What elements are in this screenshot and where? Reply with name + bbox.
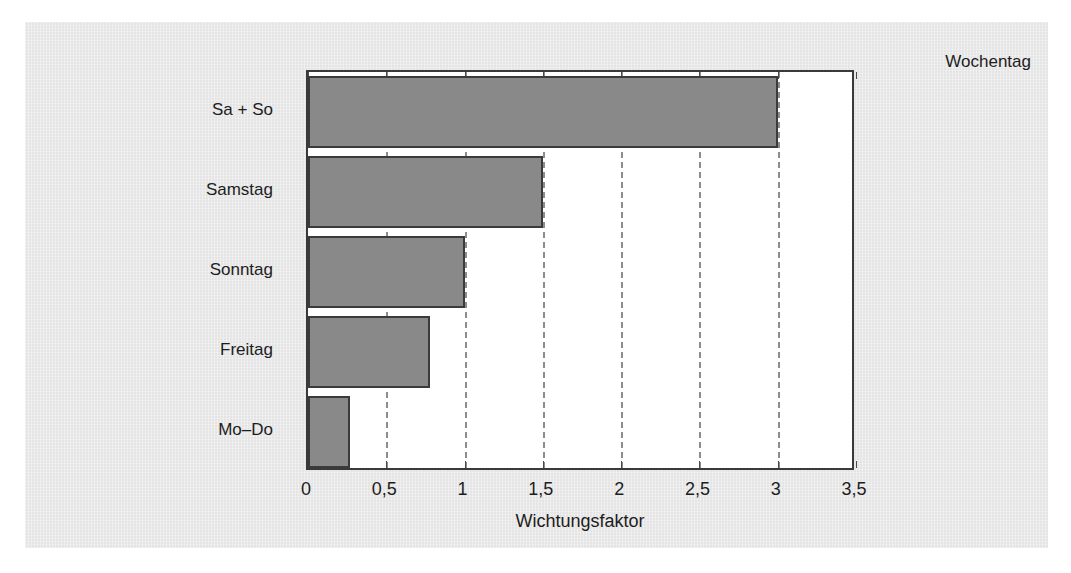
x-tick-label-2,5: 2,5: [685, 479, 710, 500]
tick-bottom-1,5: [543, 461, 544, 468]
tick-top-3: [778, 72, 779, 79]
x-tick-label-0: 0: [301, 479, 311, 500]
tick-bottom-3,5: [856, 461, 857, 468]
chart-figure: Wochentag Mo–DoFreitagSonntagSamstagSa +…: [25, 22, 1048, 548]
y-tick-label-mo–do: Mo–Do: [218, 420, 273, 440]
tick-bottom-2: [621, 461, 622, 468]
y-tick-label-sonntag: Sonntag: [210, 260, 273, 280]
plot-area: [306, 70, 854, 470]
tick-bottom-3: [778, 461, 779, 468]
x-tick-label-1: 1: [458, 479, 468, 500]
y-tick-label-freitag: Freitag: [220, 340, 273, 360]
x-tick-label-3,5: 3,5: [841, 479, 866, 500]
y-axis-tick-labels: Mo–DoFreitagSonntagSamstagSa + So: [25, 70, 290, 470]
bar-freitag: [308, 316, 430, 388]
x-tick-label-1,5: 1,5: [528, 479, 553, 500]
bar-sa-+-so: [308, 76, 778, 148]
x-tick-label-3: 3: [771, 479, 781, 500]
x-axis-title: Wichtungsfaktor: [306, 511, 854, 532]
bar-sonntag: [308, 236, 465, 308]
y-axis-title: Wochentag: [766, 52, 1031, 72]
tick-bottom-2,5: [699, 461, 700, 468]
bar-mo–do: [308, 396, 350, 468]
bar-samstag: [308, 156, 543, 228]
tick-bottom-1: [465, 461, 466, 468]
tick-top-3,5: [856, 72, 857, 79]
tick-bottom-0,5: [386, 461, 387, 468]
y-tick-label-samstag: Samstag: [206, 180, 273, 200]
x-tick-label-0,5: 0,5: [372, 479, 397, 500]
y-tick-label-sa-+-so: Sa + So: [212, 100, 273, 120]
x-tick-label-2: 2: [614, 479, 624, 500]
gridline-x-3: [778, 72, 780, 468]
